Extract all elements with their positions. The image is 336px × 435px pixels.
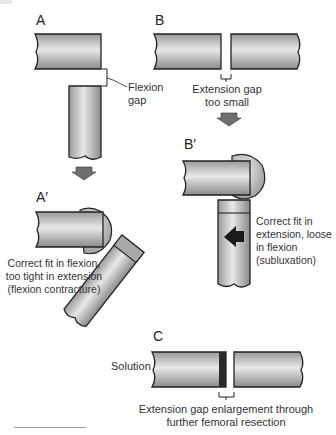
panel-a-femur — [35, 34, 101, 69]
b-prime-annotation: Correct fit in extension, loose in flexi… — [256, 215, 332, 267]
flexion-gap-label: Flexion gap — [128, 81, 163, 107]
panel-c-gap-bracket — [219, 392, 234, 400]
panel-label-b: B — [155, 12, 164, 28]
c-annotation: Extension gap enlargement through furthe… — [136, 403, 316, 429]
footer-rule — [14, 427, 86, 428]
panel-label-a: A — [36, 12, 45, 28]
panel-a-gap-bracket — [102, 69, 127, 87]
solution-label: Solution — [111, 360, 151, 373]
panel-b-prime-knee — [183, 154, 265, 287]
panel-b-tibia — [231, 34, 300, 69]
panel-label-b-prime: B′ — [184, 136, 196, 152]
panel-c-femur — [152, 352, 226, 387]
panel-c-tibia — [234, 352, 303, 387]
down-arrow-icon — [72, 167, 96, 180]
panel-a-tibia — [69, 86, 101, 159]
a-prime-annotation: Correct fit in flexion, too tight in ext… — [4, 257, 104, 296]
extension-gap-label: Extension gap too small — [192, 83, 262, 109]
panel-label-c: C — [153, 328, 163, 344]
panel-label-a-prime: A′ — [36, 189, 48, 205]
panel-b-gap-bracket — [221, 74, 231, 82]
resection-area — [219, 352, 226, 387]
down-arrow-icon — [217, 113, 241, 126]
panel-b-femur — [154, 34, 221, 69]
